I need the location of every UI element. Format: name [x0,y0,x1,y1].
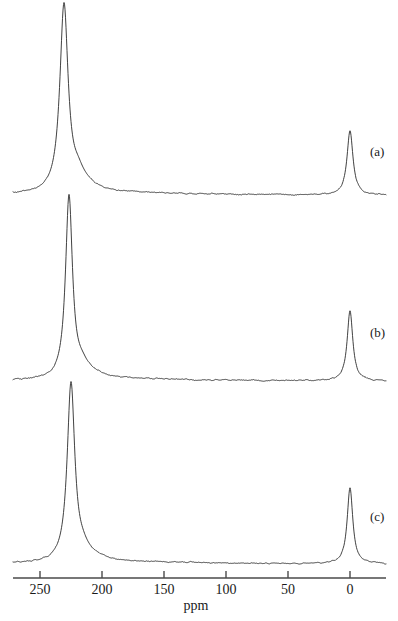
trace-label-c: (c) [370,509,384,525]
axis-tick-label-50: 50 [281,582,295,598]
axis-tick-label-250: 250 [30,582,51,598]
ppm-axis [13,571,386,578]
axis-tick-label-150: 150 [154,582,175,598]
nmr-spectra-figure: (a) (b) (c) 250200150100500 ppm [0,0,398,621]
spectrum-trace-a [13,2,386,195]
axis-tick-label-100: 100 [216,582,237,598]
spectrum-trace-b [13,194,386,381]
trace-label-b: (b) [370,325,385,341]
axis-tick-label-200: 200 [92,582,113,598]
spectra-plot-area [0,0,398,621]
trace-label-a: (a) [370,144,384,160]
traces-group [13,2,386,564]
spectrum-trace-c [13,382,386,565]
axis-tick-label-0: 0 [347,582,354,598]
axis-title-ppm: ppm [184,598,209,614]
